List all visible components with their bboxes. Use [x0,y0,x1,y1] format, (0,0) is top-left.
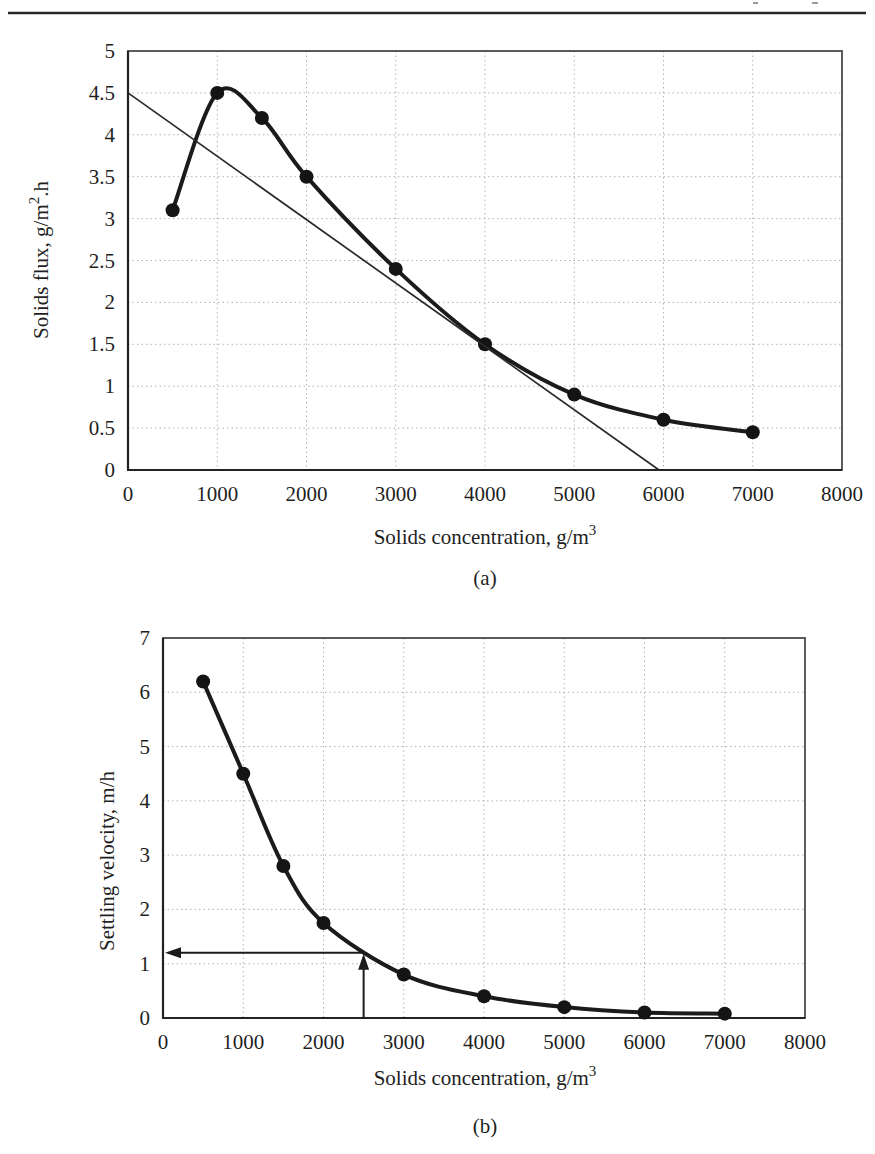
y-tick-label: 1 [140,952,151,976]
y-tick-label: 7 [140,626,151,650]
x-tick-label: 5000 [553,482,595,506]
x-tick-label: 6000 [624,1030,666,1054]
y-tick-label: 4 [105,123,116,147]
x-tick-label: 0 [158,1030,169,1054]
data-point-marker [657,413,671,427]
chart-b-caption: (b) [473,1114,498,1138]
y-tick-label: 5 [140,735,151,759]
chart-b-gridlines [163,638,805,1018]
x-tick-label: 2000 [303,1030,345,1054]
page: 01000200030004000500060007000800000.511.… [0,0,875,1154]
data-point-marker [389,262,403,276]
y-tick-label: 3 [105,207,116,231]
data-point-marker [557,1000,571,1014]
figure-svg: 01000200030004000500060007000800000.511.… [0,0,875,1154]
data-point-marker [638,1006,652,1020]
data-point-marker [567,388,581,402]
left-arrowhead [165,947,181,958]
y-tick-label: 4.5 [89,81,115,105]
data-point-marker [746,425,760,439]
chart-a-caption: (a) [473,566,496,590]
chart-b-yaxis-title: Settling velocity, m/h [95,770,119,951]
chart-a-series [128,86,760,470]
y-tick-label: 0.5 [89,416,115,440]
y-tick-label: 1 [105,374,116,398]
y-tick-label: 1.5 [89,332,115,356]
x-tick-label: 5000 [543,1030,585,1054]
data-point-marker [477,989,491,1003]
chart-b-xaxis-title: Solids concentration, g/m3 [374,1063,597,1090]
data-point-marker [236,767,250,781]
data-point-marker [166,203,180,217]
data-point-marker [210,86,224,100]
y-tick-label: 0 [105,458,116,482]
data-point-marker [397,968,411,982]
data-point-marker [276,859,290,873]
chart-a-solids-flux: 01000200030004000500060007000800000.511.… [26,39,863,590]
tangent-operating-line [128,93,659,470]
y-tick-label: 6 [140,680,151,704]
x-tick-label: 7000 [704,1030,746,1054]
y-tick-label: 2 [140,897,151,921]
x-tick-label: 3000 [383,1030,425,1054]
chart-a-yaxis-title: Solids flux, g/m2.h [26,180,53,339]
x-tick-label: 2000 [286,482,328,506]
chart-b-settling-velocity: 0100020003000400050006000700080000123456… [95,626,826,1138]
x-tick-label: 7000 [732,482,774,506]
data-point-marker [718,1007,732,1021]
y-tick-label: 0 [140,1006,151,1030]
y-tick-label: 2.5 [89,249,115,273]
data-point-marker [255,111,269,125]
chart-a-gridlines [128,51,842,470]
chart-a-xaxis-title: Solids concentration, g/m3 [374,522,597,549]
x-tick-label: 3000 [375,482,417,506]
y-tick-label: 3.5 [89,165,115,189]
x-tick-label: 6000 [643,482,685,506]
x-tick-label: 1000 [196,482,238,506]
y-tick-label: 3 [140,843,151,867]
y-tick-label: 4 [140,789,151,813]
x-tick-label: 1000 [222,1030,264,1054]
data-point-marker [196,674,210,688]
x-tick-label: 8000 [821,482,863,506]
x-tick-label: 0 [123,482,134,506]
y-tick-label: 2 [105,290,116,314]
chart-b-annotations [165,947,369,1018]
x-tick-label: 4000 [463,1030,505,1054]
x-tick-label: 8000 [784,1030,826,1054]
y-tick-label: 5 [105,39,116,63]
x-tick-label: 4000 [464,482,506,506]
chart-b-series [196,674,732,1020]
data-point-marker [317,916,331,930]
data-point-marker [300,170,314,184]
